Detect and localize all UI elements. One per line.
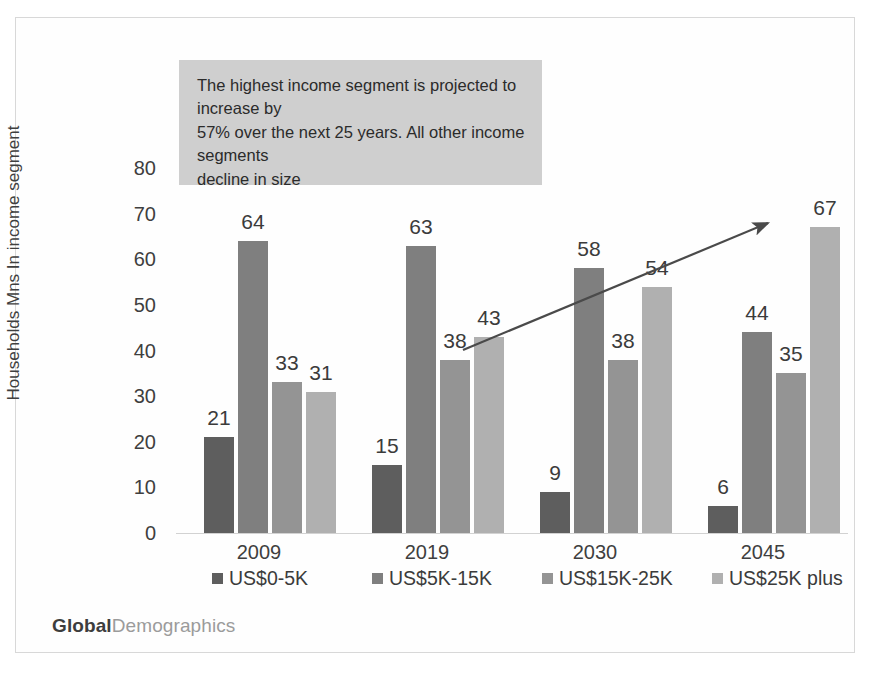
plot-area: 2164333120091563384320199583854203064435… bbox=[176, 168, 848, 533]
annotation-line-1: The highest income segment is projected … bbox=[197, 74, 526, 121]
bar-value-label: 15 bbox=[375, 435, 398, 456]
bar-value-label: 58 bbox=[577, 238, 600, 259]
bar-US0-5K-2009[interactable]: 21 bbox=[204, 437, 234, 533]
bars: 21643331 bbox=[204, 168, 336, 533]
bar-US25Kplus-2045[interactable]: 67 bbox=[810, 227, 840, 533]
x-axis-label-2045: 2045 bbox=[688, 541, 838, 564]
bar-value-label: 33 bbox=[275, 352, 298, 373]
annotation-textbox: The highest income segment is projected … bbox=[179, 60, 542, 185]
y-axis-tick-20: 20 bbox=[116, 432, 156, 452]
chart-frame: The highest income segment is projected … bbox=[15, 17, 855, 653]
bar-value-label: 31 bbox=[309, 362, 332, 383]
legend-item-US5K-15K[interactable]: US$5K-15K bbox=[372, 567, 492, 590]
bar-US0-5K-2045[interactable]: 6 bbox=[708, 506, 738, 533]
bar-value-label: 9 bbox=[549, 462, 561, 483]
bar-US15K-25K-2009[interactable]: 33 bbox=[272, 382, 302, 533]
y-axis-title: Households Mns In income segment bbox=[4, 53, 24, 473]
logo-part-global: Global bbox=[52, 615, 112, 636]
bar-US0-5K-2019[interactable]: 15 bbox=[372, 465, 402, 533]
bar-value-label: 6 bbox=[717, 476, 729, 497]
bar-group-2019: 156338432019 bbox=[372, 168, 522, 533]
bars: 6443567 bbox=[708, 168, 840, 533]
y-axis-tick-80: 80 bbox=[116, 158, 156, 178]
bar-US15K-25K-2019[interactable]: 38 bbox=[440, 360, 470, 533]
x-axis-line bbox=[176, 533, 848, 534]
bar-value-label: 38 bbox=[443, 330, 466, 351]
logo: GlobalDemographics bbox=[52, 615, 235, 637]
logo-part-demographics: Demographics bbox=[112, 615, 236, 636]
bar-value-label: 38 bbox=[611, 330, 634, 351]
bar-value-label: 21 bbox=[207, 407, 230, 428]
bar-value-label: 44 bbox=[745, 302, 768, 323]
bars: 9583854 bbox=[540, 168, 672, 533]
y-axis-tick-10: 10 bbox=[116, 477, 156, 497]
legend-swatch-icon bbox=[712, 573, 723, 584]
bar-value-label: 54 bbox=[645, 257, 668, 278]
bar-value-label: 67 bbox=[813, 197, 836, 218]
y-axis-tick-40: 40 bbox=[116, 341, 156, 361]
legend-label: US$15K-25K bbox=[559, 567, 673, 590]
bar-US15K-25K-2045[interactable]: 35 bbox=[776, 373, 806, 533]
legend-label: US$0-5K bbox=[229, 567, 308, 590]
legend-swatch-icon bbox=[212, 573, 223, 584]
legend-swatch-icon bbox=[542, 573, 553, 584]
y-axis-tick-70: 70 bbox=[116, 204, 156, 224]
bar-value-label: 35 bbox=[779, 343, 802, 364]
y-axis-tick-30: 30 bbox=[116, 386, 156, 406]
legend-label: US$5K-15K bbox=[389, 567, 492, 590]
bar-value-label: 63 bbox=[409, 216, 432, 237]
legend-item-US25Kplus[interactable]: US$25K plus bbox=[712, 567, 843, 590]
bar-US25Kplus-2009[interactable]: 31 bbox=[306, 392, 336, 533]
bar-US5K-15K-2009[interactable]: 64 bbox=[238, 241, 268, 533]
bar-US5K-15K-2030[interactable]: 58 bbox=[574, 268, 604, 533]
bar-US0-5K-2030[interactable]: 9 bbox=[540, 492, 570, 533]
legend-item-US15K-25K[interactable]: US$15K-25K bbox=[542, 567, 673, 590]
bar-US5K-15K-2045[interactable]: 44 bbox=[742, 332, 772, 533]
bars: 15633843 bbox=[372, 168, 504, 533]
bar-group-2030: 95838542030 bbox=[540, 168, 690, 533]
bar-value-label: 64 bbox=[241, 211, 264, 232]
legend-label: US$25K plus bbox=[729, 567, 843, 590]
bar-value-label: 43 bbox=[477, 307, 500, 328]
y-axis-tick-50: 50 bbox=[116, 295, 156, 315]
bar-US5K-15K-2019[interactable]: 63 bbox=[406, 246, 436, 533]
legend-item-US0-5K[interactable]: US$0-5K bbox=[212, 567, 308, 590]
legend-swatch-icon bbox=[372, 573, 383, 584]
bar-group-2009: 216433312009 bbox=[204, 168, 354, 533]
y-axis-tick-60: 60 bbox=[116, 249, 156, 269]
x-axis-label-2030: 2030 bbox=[520, 541, 670, 564]
x-axis-label-2019: 2019 bbox=[352, 541, 502, 564]
bar-US25Kplus-2030[interactable]: 54 bbox=[642, 287, 672, 533]
bar-group-2045: 64435672045 bbox=[708, 168, 858, 533]
x-axis-label-2009: 2009 bbox=[184, 541, 334, 564]
bar-US25Kplus-2019[interactable]: 43 bbox=[474, 337, 504, 533]
y-axis-tick-0: 0 bbox=[116, 523, 156, 543]
bar-US15K-25K-2030[interactable]: 38 bbox=[608, 360, 638, 533]
annotation-line-2: 57% over the next 25 years. All other in… bbox=[197, 121, 526, 168]
